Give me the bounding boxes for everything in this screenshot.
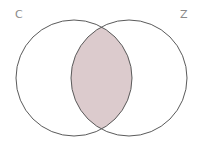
set-c-label: C <box>15 8 23 21</box>
set-z-label: Z <box>180 8 188 21</box>
venn-diagram: C Z <box>0 0 201 145</box>
intersection-region <box>71 20 187 136</box>
